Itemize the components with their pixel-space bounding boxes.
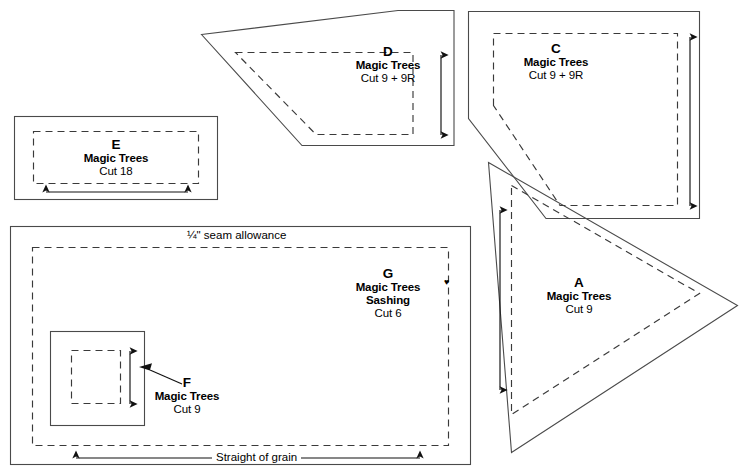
template-c-letter: C	[508, 41, 604, 56]
template-c-pattern: Magic Trees	[508, 56, 604, 69]
template-f-pattern: Magic Trees	[139, 390, 235, 403]
template-sheet: D Magic Trees Cut 9 + 9R C Magic Trees C…	[0, 0, 745, 476]
template-a-pattern: Magic Trees	[531, 290, 627, 303]
template-g-label: G Magic Trees Sashing Cut 6	[340, 266, 436, 320]
template-g-cut-outline	[11, 227, 471, 465]
template-d-label: D Magic Trees Cut 9 + 9R	[340, 44, 436, 85]
template-f-letter: F	[139, 375, 235, 390]
heart-icon: ♥	[444, 278, 449, 287]
template-a-cut: Cut 9	[531, 303, 627, 316]
template-f-cut: Cut 9	[139, 403, 235, 416]
template-g-cut: Cut 6	[340, 307, 436, 320]
seam-allowance-label: ¼" seam allowance	[183, 229, 290, 241]
template-g-letter: G	[340, 266, 436, 281]
template-g-subtitle: Sashing	[340, 294, 436, 307]
straight-of-grain-label: Straight of grain	[212, 451, 301, 463]
template-c-cut: Cut 9 + 9R	[508, 69, 604, 82]
template-c-label: C Magic Trees Cut 9 + 9R	[508, 41, 604, 82]
template-f-label: F Magic Trees Cut 9	[139, 375, 235, 416]
template-d-pattern: Magic Trees	[340, 59, 436, 72]
template-d-cut: Cut 9 + 9R	[340, 72, 436, 85]
seam-lines-group	[33, 34, 700, 446]
template-f-seam-line	[72, 351, 121, 404]
template-e-letter: E	[68, 137, 164, 152]
template-f-leader-arrowhead	[139, 363, 152, 370]
template-e-pattern: Magic Trees	[68, 152, 164, 165]
template-e-cut: Cut 18	[68, 165, 164, 178]
template-a-letter: A	[531, 275, 627, 290]
template-g-pattern: Magic Trees	[340, 281, 436, 294]
template-e-label: E Magic Trees Cut 18	[68, 137, 164, 178]
template-d-letter: D	[340, 44, 436, 59]
template-a-label: A Magic Trees Cut 9	[531, 275, 627, 316]
